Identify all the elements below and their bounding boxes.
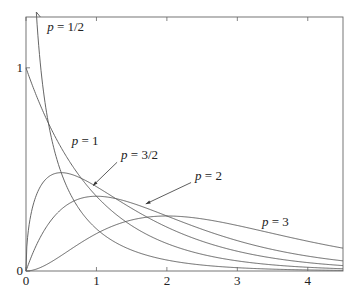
gamma-density-chart: 0123401 p = 1/2p = 1p = 3/2p = 2p = 3 [0, 0, 360, 300]
x-tick-label: 3 [234, 273, 241, 288]
curve-label: p = 3/2 [120, 147, 158, 162]
x-tick-label: 2 [164, 273, 171, 288]
curve-label: p = 1/2 [46, 19, 84, 34]
ticks: 0123401 [17, 17, 312, 288]
curve-label: p = 2 [194, 168, 222, 183]
arrow [93, 162, 117, 185]
y-tick-label: 0 [17, 263, 24, 278]
x-tick-label: 4 [305, 273, 312, 288]
curve-p-2 [26, 196, 343, 271]
curve-p-3-2 [26, 173, 343, 271]
x-tick-label: 0 [23, 273, 30, 288]
arrow [146, 183, 191, 204]
arrowhead-icon [146, 200, 151, 204]
curve-label: p = 1 [71, 133, 99, 148]
x-tick-label: 1 [93, 273, 100, 288]
y-tick-label: 1 [17, 60, 24, 75]
curve-label: p = 3 [261, 214, 289, 229]
